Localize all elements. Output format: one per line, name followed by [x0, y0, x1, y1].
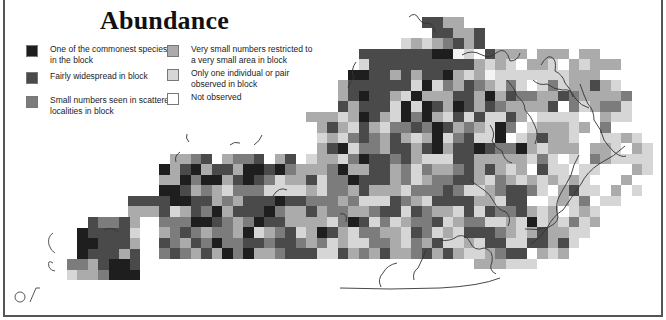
grid-cell	[401, 49, 412, 60]
grid-cell	[422, 38, 433, 49]
grid-cell	[109, 270, 120, 281]
grid-cell	[579, 101, 590, 112]
grid-cell	[590, 49, 601, 60]
grid-cell	[506, 175, 517, 186]
grid-cell	[98, 259, 109, 270]
grid-cell	[527, 238, 538, 249]
grid-cell	[401, 143, 412, 154]
grid-cell	[401, 248, 412, 259]
grid-cell	[369, 248, 380, 259]
grid-cell	[527, 185, 538, 196]
grid-cell	[77, 249, 88, 260]
grid-cell	[130, 217, 141, 228]
grid-cell	[485, 196, 496, 207]
grid-cell	[348, 227, 359, 238]
grid-cell	[180, 185, 191, 196]
grid-cell	[369, 185, 380, 196]
grid-cell	[254, 164, 265, 175]
grid-cell	[159, 227, 170, 238]
grid-cell	[159, 164, 170, 175]
grid-cell	[159, 196, 170, 207]
grid-cell	[516, 143, 527, 154]
grid-cell	[327, 206, 338, 217]
grid-cell	[411, 80, 422, 91]
grid-cell	[77, 259, 88, 270]
grid-cell	[401, 238, 412, 249]
grid-cell	[380, 164, 391, 175]
grid-cell	[159, 217, 170, 228]
grid-cell	[109, 238, 120, 249]
grid-cell	[191, 217, 202, 228]
grid-cell	[369, 112, 380, 123]
grid-cell	[495, 59, 506, 70]
grid-cell	[537, 154, 548, 165]
grid-cell	[527, 143, 538, 154]
grid-cell	[569, 59, 580, 70]
grid-cell	[338, 91, 349, 102]
grid-cell	[130, 249, 141, 260]
grid-cell	[348, 248, 359, 259]
grid-cell	[390, 143, 401, 154]
grid-cell	[590, 206, 601, 217]
grid-cell	[317, 238, 328, 249]
grid-cell	[548, 133, 559, 144]
grid-cell	[611, 185, 622, 196]
grid-cell	[243, 217, 254, 228]
grid-cell	[359, 154, 370, 165]
grid-cell	[485, 70, 496, 81]
grid-cell	[401, 70, 412, 81]
grid-cell	[443, 70, 454, 81]
grid-cell	[306, 248, 317, 259]
grid-cell	[191, 164, 202, 175]
grid-cell	[390, 164, 401, 175]
grid-cell	[422, 91, 433, 102]
grid-cell	[548, 164, 559, 175]
grid-cell	[548, 122, 559, 133]
grid-cell	[579, 91, 590, 102]
grid-cell	[516, 101, 527, 112]
grid-cell	[485, 259, 496, 270]
grid-cell	[411, 133, 422, 144]
grid-cell	[222, 238, 233, 249]
grid-cell	[390, 217, 401, 228]
grid-cell	[495, 196, 506, 207]
grid-cell	[380, 101, 391, 112]
grid-cell	[432, 154, 443, 165]
grid-cell	[109, 217, 120, 228]
grid-cell	[411, 70, 422, 81]
grid-cell	[474, 164, 485, 175]
grid-cell	[170, 206, 181, 217]
grid-cell	[390, 154, 401, 165]
grid-cell	[327, 238, 338, 249]
grid-cell	[443, 38, 454, 49]
grid-cell	[380, 112, 391, 123]
grid-cell	[516, 49, 527, 60]
grid-cell	[411, 112, 422, 123]
grid-cell	[495, 101, 506, 112]
grid-cell	[222, 154, 233, 165]
grid-cell	[527, 227, 538, 238]
grid-cell	[537, 227, 548, 238]
grid-cell	[537, 101, 548, 112]
grid-cell	[495, 248, 506, 259]
grid-cell	[88, 238, 99, 249]
grid-cell	[359, 196, 370, 207]
grid-cell	[201, 175, 212, 186]
grid-cell	[464, 196, 475, 207]
grid-cell	[109, 228, 120, 239]
grid-cell	[369, 49, 380, 60]
grid-cell	[432, 238, 443, 249]
grid-cell	[443, 133, 454, 144]
grid-cell	[621, 133, 632, 144]
grid-cell	[348, 217, 359, 228]
grid-cell	[338, 248, 349, 259]
grid-cell	[506, 80, 517, 91]
grid-cell	[317, 164, 328, 175]
grid-cell	[348, 206, 359, 217]
grid-cell	[390, 80, 401, 91]
grid-cell	[569, 154, 580, 165]
grid-cell	[212, 206, 223, 217]
grid-cell	[474, 112, 485, 123]
grid-cell	[243, 185, 254, 196]
grid-cell	[600, 133, 611, 144]
